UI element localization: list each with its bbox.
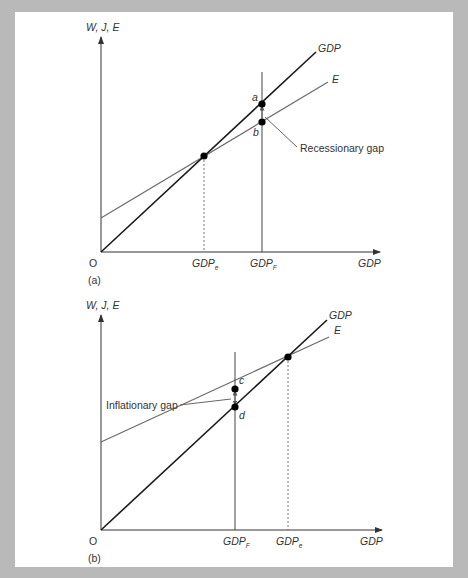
equilibrium-point [284, 353, 291, 360]
panel-a-label: (a) [88, 274, 101, 286]
origin-label: O [89, 257, 97, 269]
x-axis-label: GDP [358, 257, 381, 269]
tick-gdp-e: GDPe [192, 257, 219, 271]
point-c [231, 385, 238, 392]
tick-gdp-f: GDPF [223, 535, 251, 549]
y-axis-label: W, J, E [86, 299, 120, 311]
gdp-line-label: GDP [329, 309, 352, 321]
point-c-label: c [239, 374, 245, 386]
e-line [101, 82, 328, 218]
figure: W, J, E a b GDP E Recessionary gap O GDP… [0, 0, 468, 578]
panel-a: W, J, E a b GDP E Recessionary gap O GDP… [86, 21, 384, 286]
e-line-label: E [334, 324, 342, 336]
tick-gdp-f: GDPF [250, 257, 278, 271]
point-a [258, 100, 265, 107]
e-line [101, 337, 329, 442]
x-axis-label: GDP [360, 535, 383, 547]
y-axis-label: W, J, E [86, 21, 120, 33]
origin-label: O [89, 535, 97, 547]
panel-b: W, J, E c d GDP E Inflationary gap O GDP… [86, 299, 383, 564]
gap-label: Inflationary gap [106, 399, 178, 411]
gap-leader-line [265, 117, 297, 147]
point-b-label: b [253, 126, 259, 138]
point-d [231, 403, 238, 410]
panel-b-label: (b) [88, 552, 101, 564]
e-line-label: E [332, 73, 340, 85]
equilibrium-point [200, 152, 207, 159]
point-a-label: a [252, 91, 258, 103]
gap-label: Recessionary gap [300, 142, 384, 154]
point-b [258, 118, 265, 125]
gdp-line [101, 52, 316, 252]
gdp-line-label: GDP [318, 42, 341, 54]
tick-gdp-e: GDPe [276, 535, 303, 549]
gdp-line [101, 320, 327, 530]
point-d-label: d [239, 409, 246, 421]
